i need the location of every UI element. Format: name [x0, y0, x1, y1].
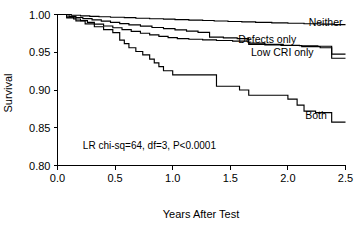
x-tick-label: 1.5: [223, 172, 238, 184]
survival-curve: [58, 15, 346, 123]
x-tick-label: 2.5: [338, 172, 353, 184]
y-tick-label: 0.90: [29, 84, 50, 96]
x-tick-label: 1.0: [165, 172, 180, 184]
y-axis-ticks: 0.800.850.900.951.00: [29, 9, 57, 172]
x-tick-label: 0.0: [50, 172, 65, 184]
y-tick-label: 1.00: [29, 9, 50, 21]
curve-label: Neither: [309, 16, 343, 28]
curve-label: Low CRI only: [251, 46, 314, 58]
curve-label: Defects only: [238, 33, 297, 45]
log-rank-statistic: LR chi-sq=64, df=3, P<0.0001: [83, 140, 217, 151]
curve-labels: NeitherDefects onlyLow CRI onlyBoth: [238, 16, 343, 121]
y-tick-label: 0.95: [29, 46, 50, 58]
curve-label: Both: [305, 109, 327, 121]
x-tick-label: 0.5: [107, 172, 122, 184]
y-tick-label: 0.80: [29, 160, 50, 172]
chart-annotations: LR chi-sq=64, df=3, P<0.0001: [83, 140, 217, 151]
x-tick-label: 2.0: [280, 172, 295, 184]
chart-canvas: 0.800.850.900.951.00 0.00.51.01.52.02.5 …: [0, 0, 358, 225]
survival-curves: [58, 15, 346, 123]
y-tick-label: 0.85: [29, 122, 50, 134]
x-axis-ticks: 0.00.51.01.52.02.5: [50, 166, 353, 184]
y-axis-title: Survival: [2, 73, 14, 112]
survival-curve-figure: 0.800.850.900.951.00 0.00.51.01.52.02.5 …: [0, 0, 358, 225]
x-axis-title: Years After Test: [163, 208, 239, 220]
